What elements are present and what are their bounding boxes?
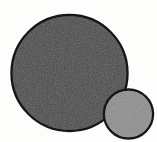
circles-illustration xyxy=(0,0,157,142)
small-circle-texture xyxy=(105,91,152,138)
image-canvas xyxy=(0,0,157,142)
